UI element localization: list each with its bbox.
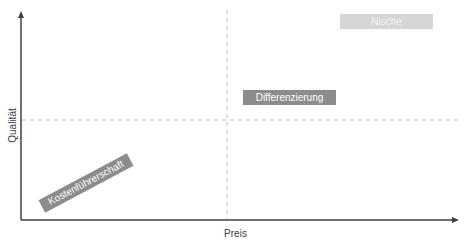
quadrant-box-differenzierung: Differenzierung: [243, 90, 336, 105]
x-axis-label: Preis: [0, 228, 471, 239]
y-axis-arrow-icon: [18, 11, 24, 18]
diagram-canvas: [0, 0, 471, 246]
y-axis-label: Qualität: [7, 106, 18, 146]
x-axis-arrow-icon: [452, 217, 459, 223]
quadrant-box-nische: Nische: [340, 14, 433, 29]
